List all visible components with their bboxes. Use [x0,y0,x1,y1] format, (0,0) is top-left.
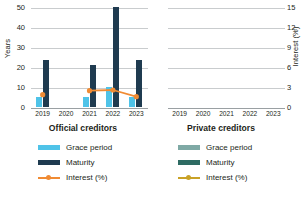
official-creditors-legend: Grace periodMaturityInterest (%) [38,140,112,185]
right-axis-tick: 9 [287,44,303,52]
x-axis-tick-label: 2020 [191,110,215,117]
official-creditors-plot [31,8,148,108]
x-axis-tick-label: 2020 [54,110,78,117]
interest-data-point [110,87,115,92]
axis-baseline [168,108,285,109]
x-axis-tick-label: 2022 [238,110,262,117]
x-axis-tick-label: 2019 [31,110,55,117]
legend-item: Interest (%) [38,170,112,185]
left-axis-tick: 10 [3,84,25,92]
gridline [168,48,285,49]
legend-label: Interest (%) [206,173,247,182]
gridline [168,28,285,29]
private-creditors-legend: Grace periodMaturityInterest (%) [178,140,252,185]
gridline [168,68,285,69]
right-axis-tick: 0 [287,104,303,112]
chart-root: Years Interest (%) 50403020100 15129630 … [0,0,304,197]
interest-line-series [31,8,148,108]
private-creditors-plot [168,8,285,108]
legend-item: Grace period [38,140,112,155]
legend-item: Maturity [178,155,252,170]
legend-color-swatch [38,160,60,165]
axis-baseline [31,108,148,109]
legend-line-swatch [38,174,60,181]
gridline [168,88,285,89]
x-axis-tick-label: 2021 [215,110,239,117]
left-axis-tick: 20 [3,64,25,72]
left-axis-tick: 50 [3,4,25,12]
interest-data-point [40,92,45,97]
official-creditors-title: Official creditors [8,123,158,133]
right-axis-tick: 6 [287,64,303,72]
legend-item: Grace period [178,140,252,155]
x-axis-tick-label: 2019 [168,110,192,117]
legend-color-swatch [178,145,200,150]
legend-label: Grace period [206,143,252,152]
private-creditors-title: Private creditors [146,123,296,133]
legend-color-swatch [178,160,200,165]
x-axis-tick-label: 2023 [124,110,148,117]
legend-label: Interest (%) [66,173,107,182]
right-axis-tick: 15 [287,4,303,12]
interest-data-point [134,94,139,99]
x-axis-tick-label: 2021 [78,110,102,117]
left-axis-tick: 30 [3,44,25,52]
legend-item: Interest (%) [178,170,252,185]
gridline [168,8,285,9]
left-axis-tick: 0 [3,104,25,112]
x-axis-tick-label: 2023 [261,110,285,117]
legend-color-swatch [38,145,60,150]
legend-label: Grace period [66,143,112,152]
right-axis-tick: 12 [287,24,303,32]
right-axis-tick: 3 [287,84,303,92]
left-axis-tick: 40 [3,24,25,32]
x-axis-tick-label: 2022 [101,110,125,117]
legend-label: Maturity [66,158,94,167]
legend-line-swatch [178,174,200,181]
interest-data-point [87,88,92,93]
legend-label: Maturity [206,158,234,167]
legend-item: Maturity [38,155,112,170]
